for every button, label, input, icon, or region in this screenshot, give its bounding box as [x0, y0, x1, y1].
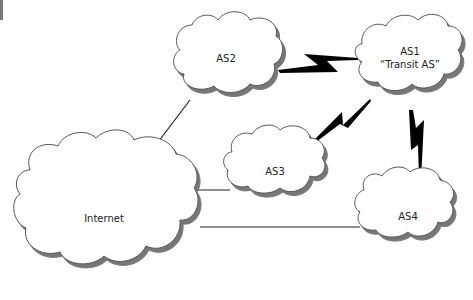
label-internet: Internet — [84, 213, 124, 224]
label-as1-line1: AS1 — [400, 46, 420, 57]
label-as3: AS3 — [265, 166, 285, 177]
cloud-as4 — [355, 167, 454, 237]
cloud-internet — [14, 130, 198, 264]
lightning-as2-as1 — [278, 54, 358, 73]
cloud-as3 — [224, 125, 325, 193]
label-as4: AS4 — [398, 211, 418, 222]
label-as2: AS2 — [216, 53, 236, 64]
lightning-as3-as1 — [314, 99, 371, 142]
network-diagram: AS2 AS1 “Transit AS” AS3 AS4 Internet — [0, 0, 473, 300]
label-as1-line2: “Transit AS” — [380, 59, 440, 70]
